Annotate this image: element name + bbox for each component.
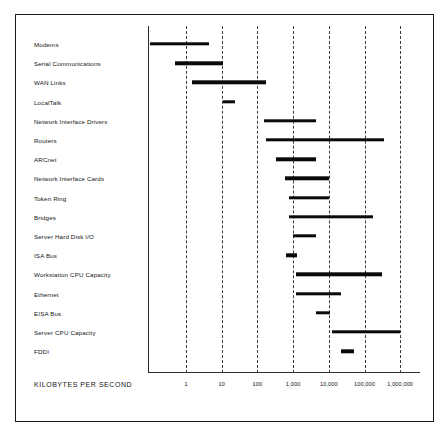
category-label: Network Interface Drivers <box>34 117 108 124</box>
range-bar <box>289 196 329 199</box>
category-label: ARCnet <box>34 156 57 163</box>
gridline-1 <box>186 26 187 373</box>
x-axis-title: KILOBYTES PER SECOND <box>34 381 132 388</box>
x-tick-label: 100,000 <box>354 381 375 387</box>
range-bar <box>175 61 223 64</box>
category-label: Routers <box>34 137 57 144</box>
range-bar <box>276 157 317 160</box>
range-bar <box>286 253 297 256</box>
range-bar <box>293 234 316 237</box>
plot-area <box>148 26 420 373</box>
x-tick-label: 1 <box>184 381 187 387</box>
range-bar <box>223 100 235 103</box>
gridline-1000000 <box>400 26 401 373</box>
x-tick-label: 10 <box>218 381 224 387</box>
gridline-10000 <box>329 26 330 373</box>
range-bar <box>266 138 385 141</box>
range-bar <box>341 349 354 352</box>
range-bar <box>332 330 401 333</box>
category-label: Serial Communications <box>34 60 101 67</box>
range-bar <box>150 42 208 45</box>
range-bar <box>296 273 382 276</box>
category-label: EISA Bus <box>34 309 61 316</box>
category-label: Server CPU Capacity <box>34 329 96 336</box>
range-bar <box>316 311 330 314</box>
gridline-100000 <box>365 26 366 373</box>
category-label: FDDI <box>34 348 49 355</box>
x-tick-label: 10,000 <box>320 381 338 387</box>
y-axis-line <box>148 26 149 373</box>
category-label: Server Hard Disk I/O <box>34 233 94 240</box>
category-label: LocalTalk <box>34 98 61 105</box>
x-tick-label: 100 <box>253 381 263 387</box>
category-label: Bridges <box>34 213 56 220</box>
range-bar <box>192 81 265 84</box>
gridline-100 <box>257 26 258 373</box>
category-label-column: ModemsSerial CommunicationsWAN LinksLoca… <box>16 15 148 421</box>
chart-frame: ModemsSerial CommunicationsWAN LinksLoca… <box>15 14 434 422</box>
category-label: Modems <box>34 41 59 48</box>
range-bar <box>296 292 341 295</box>
x-tick-label: 1,000 <box>286 381 301 387</box>
category-label: Token Ring <box>34 194 66 201</box>
range-bar <box>285 177 329 180</box>
x-tick-label-row: 1101001,00010,000100,0001,000,000 <box>148 381 420 397</box>
category-label: Network Interface Cards <box>34 175 104 182</box>
category-label: Workstation CPU Capacity <box>34 271 111 278</box>
category-label: WAN Links <box>34 79 66 86</box>
category-label: Ethernet <box>34 290 59 297</box>
gridline-10 <box>222 26 223 373</box>
x-tick-label: 1,000,000 <box>387 381 413 387</box>
range-bar <box>264 119 317 122</box>
gridline-1000 <box>293 26 294 373</box>
x-axis-line <box>148 372 420 373</box>
category-label: ISA Bus <box>34 252 57 259</box>
range-bar <box>289 215 373 218</box>
